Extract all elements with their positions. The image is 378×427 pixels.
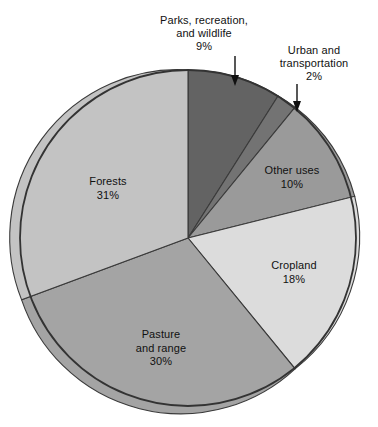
label-other-uses: Other uses 10%: [246, 164, 338, 191]
label-urban-line1: Urban and: [256, 44, 372, 57]
label-pasture-line2: and range: [106, 342, 216, 356]
label-urban-transportation: Urban and transportation 2%: [256, 44, 372, 83]
pie-chart-figure: Parks, recreation, and wildlife 9% Urban…: [0, 0, 378, 427]
label-pasture-and-range: Pasture and range 30%: [106, 328, 216, 369]
label-pasture-percent: 30%: [106, 355, 216, 369]
label-parks-line2: and wildlife: [128, 27, 280, 40]
label-other-uses-line1: Other uses: [246, 164, 338, 178]
label-pasture-line1: Pasture: [106, 328, 216, 342]
label-forests-line1: Forests: [65, 175, 151, 189]
label-cropland: Cropland 18%: [248, 259, 340, 286]
label-urban-percent: 2%: [256, 70, 372, 83]
label-parks-line1: Parks, recreation,: [128, 14, 280, 27]
label-urban-line2: transportation: [256, 57, 372, 70]
label-cropland-line1: Cropland: [248, 259, 340, 273]
label-forests-percent: 31%: [65, 189, 151, 203]
label-other-uses-percent: 10%: [246, 178, 338, 192]
label-cropland-percent: 18%: [248, 273, 340, 287]
label-forests: Forests 31%: [65, 175, 151, 202]
